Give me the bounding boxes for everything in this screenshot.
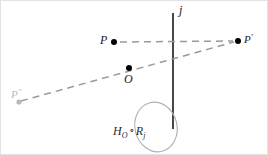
label-composition-formula: HO∘Rj (113, 125, 145, 140)
formula-h-subscript: O (122, 131, 128, 140)
label-line-j: j (179, 4, 182, 16)
geometry-figure: P P′ P″ O j HO∘Rj (0, 0, 268, 155)
label-point-o: O (124, 73, 133, 85)
prime-mark-icon: ′ (251, 32, 253, 42)
double-prime-mark-icon: ″ (18, 87, 22, 97)
formula-r-base: R (136, 124, 143, 138)
label-point-p-prime-text: P (244, 33, 251, 45)
label-point-p-double-prime-text: P (11, 88, 18, 100)
point-o-marker (126, 65, 132, 71)
point-p-marker (111, 39, 117, 45)
label-point-p-prime: P′ (244, 33, 253, 45)
composition-operator-icon: ∘ (128, 126, 136, 136)
label-point-p: P (100, 34, 107, 46)
dashed-line-p-to-pprime (120, 41, 233, 42)
formula-r-subscript: j (143, 131, 145, 140)
label-point-p-double-prime: P″ (11, 88, 21, 100)
formula-h-base: H (113, 124, 122, 138)
point-p-double-prime-marker (16, 99, 21, 104)
point-p-prime-marker (235, 38, 241, 44)
